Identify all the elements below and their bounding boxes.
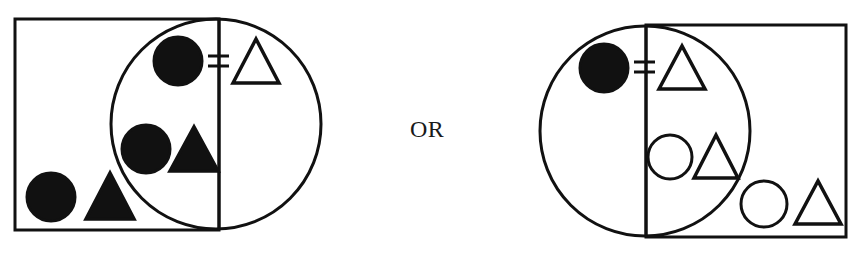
filled-circle-icon [27,173,75,221]
right-venn-figure [540,25,846,237]
open-circle-icon [741,181,787,227]
or-separator-label: OR [410,116,444,143]
open-triangle-icon [233,39,279,83]
open-circle-icon [648,135,692,179]
filled-triangle-icon [170,127,218,171]
filled-circle-icon [154,37,202,85]
open-triangle-icon [795,181,841,224]
filled-circle-icon [122,125,170,173]
left-venn-figure [15,19,321,230]
open-triangle-icon [694,135,738,178]
filled-circle-icon [580,44,628,92]
open-triangle-icon [659,46,705,89]
